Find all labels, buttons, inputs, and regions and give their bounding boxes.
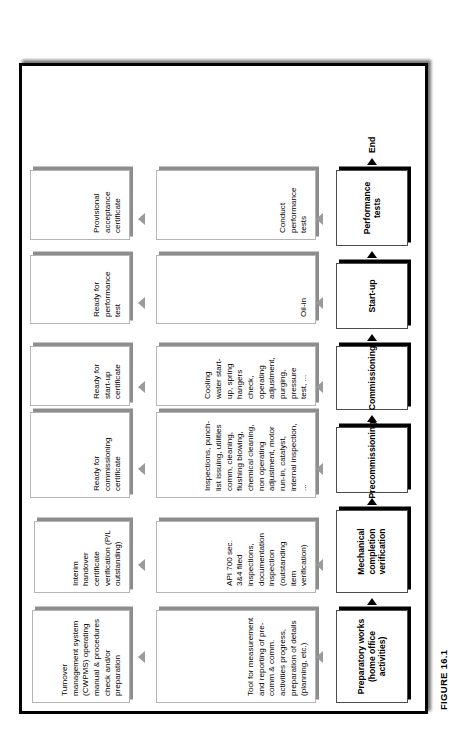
- arrow-up-icon: [138, 651, 145, 663]
- detail-box-startup: Oil-in: [156, 255, 316, 324]
- detail-box-precommissioning: Inspections, punch-list issuing, utiliti…: [156, 412, 316, 498]
- phase-box-preparatory[interactable]: Preparatory works (home office activitie…: [336, 610, 408, 703]
- phase-box-performance[interactable]: Performance tests: [336, 170, 408, 246]
- arrow-right-icon: [367, 498, 377, 505]
- phase-cell-commissioning: Commissioning: [326, 346, 418, 410]
- detail-row: Tool for measurement and reporting of pr…: [152, 68, 320, 703]
- arrow-up-icon: [316, 559, 323, 571]
- phase-cell-precommissioning: Precommissioning: [326, 427, 418, 493]
- phase-box-mechanical[interactable]: Mechanical completion verification: [336, 510, 408, 593]
- figure-page: Turnover management system (CWPMS) opera…: [0, 0, 449, 730]
- output-box-precommissioning: Ready for commissioning certificate: [30, 412, 130, 498]
- arrow-up-icon: [316, 213, 323, 225]
- output-box-preparatory: Turnover management system (CWPMS) opera…: [32, 610, 130, 703]
- phase-box-startup[interactable]: Start-up: [336, 263, 408, 329]
- flowchart: Turnover management system (CWPMS) opera…: [30, 68, 423, 703]
- arrow-right-icon: [367, 334, 377, 341]
- phase-box-commissioning[interactable]: Commissioning: [336, 346, 408, 410]
- detail-box-performance: Conduct performance tests: [156, 170, 316, 240]
- figure-frame: Turnover management system (CWPMS) opera…: [19, 63, 428, 714]
- detail-box-mechanical: API 700 sec. 3&4 filed inspections, docu…: [156, 521, 316, 593]
- phase-box-precommissioning[interactable]: Precommissioning: [336, 427, 408, 493]
- arrow-right-icon: [367, 598, 377, 605]
- arrow-up-icon: [316, 651, 323, 663]
- output-box-performance: Provisional acceptance certificate: [30, 170, 130, 240]
- figure-caption: FIGURE 16.1: [438, 650, 449, 710]
- arrow-up-icon: [138, 559, 145, 571]
- arrow-right-icon: [367, 251, 377, 258]
- output-row: Turnover management system (CWPMS) opera…: [30, 68, 134, 703]
- output-box-mechanical: Interim handover certificate verificatio…: [34, 521, 130, 593]
- output-box-commissioning: Ready for start-up certificate: [30, 346, 130, 406]
- arrow-up-icon: [316, 381, 323, 393]
- phase-cell-startup: Start-up: [326, 263, 418, 329]
- phase-cell-preparatory: Preparatory works (home office activitie…: [326, 610, 418, 703]
- output-box-startup: Ready for performance test: [30, 255, 130, 324]
- arrow-up-icon: [316, 463, 323, 475]
- detail-box-commissioning: Cooling water start-up, spring hangers c…: [156, 346, 316, 406]
- phase-cell-mechanical: Mechanical completion verification: [326, 510, 418, 593]
- arrow-right-icon: [367, 158, 377, 165]
- detail-box-preparatory: Tool for measurement and reporting of pr…: [156, 610, 316, 703]
- phase-cell-performance: Performance tests: [326, 170, 418, 246]
- rotated-figure-wrapper: Turnover management system (CWPMS) opera…: [0, 0, 449, 730]
- arrow-up-icon: [138, 297, 145, 309]
- phase-row: Preparatory works (home office activitie…: [326, 68, 418, 703]
- end-label: End: [367, 137, 377, 153]
- arrow-up-icon: [316, 297, 323, 309]
- arrow-up-icon: [138, 463, 145, 475]
- arrow-up-icon: [138, 381, 145, 393]
- arrow-up-icon: [138, 213, 145, 225]
